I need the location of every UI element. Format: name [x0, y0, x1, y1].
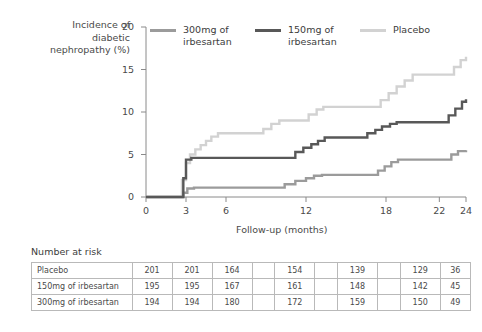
legend-entry-placebo: Placebo — [360, 24, 430, 36]
risk-cell-empty — [252, 295, 275, 311]
legend-label-placebo: Placebo — [393, 24, 430, 36]
x-axis-ticks — [146, 197, 466, 202]
risk-cell-empty — [252, 263, 275, 279]
risk-row-label: 150mg of irbesartan — [32, 279, 133, 295]
legend-swatch-300mg — [150, 29, 176, 32]
risk-cell: 164 — [212, 263, 252, 279]
series-line-1 — [146, 99, 466, 197]
x-axis-tick-label: 0 — [134, 205, 158, 216]
x-axis-tick-label: 3 — [174, 205, 198, 216]
risk-cell: 139 — [337, 263, 377, 279]
risk-cell-empty — [315, 263, 338, 279]
table-row: Placebo20120116415413912936 — [32, 263, 471, 279]
risk-cell: 154 — [275, 263, 315, 279]
risk-cell: 148 — [337, 279, 377, 295]
risk-row-label: 300mg of irbesartan — [32, 295, 133, 311]
risk-table-caption: Number at risk — [31, 246, 102, 257]
series-layer — [146, 57, 466, 197]
risk-table-wrapper: Placebo20120116415413912936150mg of irbe… — [31, 262, 471, 311]
kaplan-meier-figure: Incidence of diabetic nephropathy (%) 05… — [0, 0, 482, 332]
risk-cell: 194 — [132, 295, 172, 311]
legend-label-300mg: 300mg of irbesartan — [183, 24, 232, 48]
legend-swatch-150mg — [255, 29, 281, 32]
risk-cell: 36 — [440, 263, 470, 279]
y-axis-tick-label: 0 — [112, 191, 134, 202]
risk-cell: 201 — [132, 263, 172, 279]
risk-cell: 161 — [275, 279, 315, 295]
legend-label-150mg: 150mg of irbesartan — [288, 24, 337, 48]
chart-legend: 300mg of irbesartan 150mg of irbesartan … — [150, 24, 470, 56]
risk-cell: 180 — [212, 295, 252, 311]
risk-cell-empty — [315, 279, 338, 295]
risk-cell-empty — [377, 263, 400, 279]
table-row: 150mg of irbesartan19519516716114814245 — [32, 279, 471, 295]
number-at-risk-table: Placebo20120116415413912936150mg of irbe… — [31, 262, 471, 311]
y-axis-tick-label: 10 — [112, 106, 134, 117]
risk-cell: 167 — [212, 279, 252, 295]
risk-cell: 142 — [400, 279, 440, 295]
x-axis-tick-label: 22 — [427, 205, 451, 216]
table-row: 300mg of irbesartan19419418017215915049 — [32, 295, 471, 311]
risk-row-label: Placebo — [32, 263, 133, 279]
legend-swatch-placebo — [360, 29, 386, 32]
legend-entry-300mg: 300mg of irbesartan — [150, 24, 232, 48]
risk-cell: 45 — [440, 279, 470, 295]
legend-entry-150mg: 150mg of irbesartan — [255, 24, 337, 48]
risk-cell: 201 — [172, 263, 212, 279]
x-axis-title: Follow-up (months) — [236, 224, 328, 235]
series-line-2 — [146, 57, 466, 197]
risk-cell: 150 — [400, 295, 440, 311]
risk-cell: 49 — [440, 295, 470, 311]
y-axis-tick-label: 20 — [112, 21, 134, 32]
x-axis-tick-label: 24 — [454, 205, 478, 216]
risk-cell: 129 — [400, 263, 440, 279]
risk-cell: 172 — [275, 295, 315, 311]
risk-cell-empty — [377, 295, 400, 311]
y-axis-ticks — [141, 27, 146, 197]
risk-cell-empty — [377, 279, 400, 295]
x-axis-tick-label: 12 — [294, 205, 318, 216]
risk-cell: 195 — [172, 279, 212, 295]
risk-cell-empty — [315, 295, 338, 311]
risk-cell: 194 — [172, 295, 212, 311]
risk-cell: 159 — [337, 295, 377, 311]
x-axis-tick-label: 18 — [374, 205, 398, 216]
y-axis-tick-label: 15 — [112, 64, 134, 75]
risk-cell-empty — [252, 279, 275, 295]
x-axis-tick-label: 6 — [214, 205, 238, 216]
risk-cell: 195 — [132, 279, 172, 295]
y-axis-tick-label: 5 — [112, 149, 134, 160]
